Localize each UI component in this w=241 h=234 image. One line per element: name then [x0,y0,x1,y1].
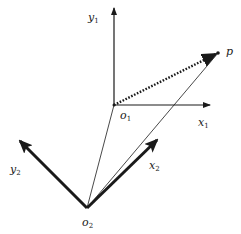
y1-label: y1 [87,11,99,25]
frames-diagram: y1 x1 o1 p y2 x2 o2 [0,0,241,234]
y2-label: y2 [9,163,21,177]
x1-label: x1 [198,116,209,130]
p-label: p [226,45,233,58]
o1-point [113,104,116,107]
o1-to-p-dotted-arrow [114,54,216,105]
x2-label: x2 [149,159,160,173]
o1-label: o1 [120,109,131,123]
o2-label: o2 [82,216,93,230]
o2-to-p-line [87,53,218,208]
x2-axis-arrow [87,140,157,208]
p-point [216,51,220,55]
y2-axis-arrow [20,141,87,208]
